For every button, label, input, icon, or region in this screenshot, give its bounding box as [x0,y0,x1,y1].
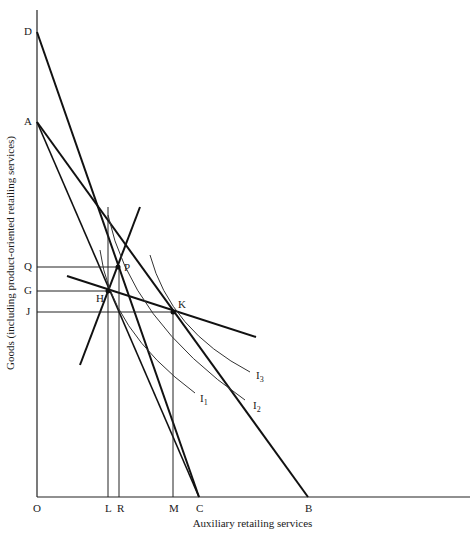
label-B: B [305,503,312,514]
x-axis-title: Auxiliary retailing services [0,517,475,529]
point-K-marker [171,310,176,315]
label-I2: I2 [253,400,261,415]
indifference-curve-I3 [150,255,250,372]
point-P-marker [116,265,121,270]
label-D: D [24,26,32,37]
point-H-marker [106,289,111,294]
label-L: L [105,503,112,514]
label-C: C [196,503,203,514]
indifference-curve-I2 [108,215,245,400]
label-G: G [24,285,32,296]
label-R: R [117,503,124,514]
label-J: J [26,306,30,317]
economics-diagram [0,0,475,537]
label-I1: I1 [200,393,208,408]
label-O: O [33,503,41,514]
label-Q: Q [24,261,32,272]
budget-line-AC [37,122,199,497]
label-K: K [178,299,186,310]
label-H: H [96,293,104,304]
label-A: A [24,116,32,127]
y-axis-title: Goods (including product-oriented retail… [4,136,16,370]
label-P: P [124,262,130,273]
label-M: M [169,503,179,514]
label-I3: I3 [256,370,264,385]
